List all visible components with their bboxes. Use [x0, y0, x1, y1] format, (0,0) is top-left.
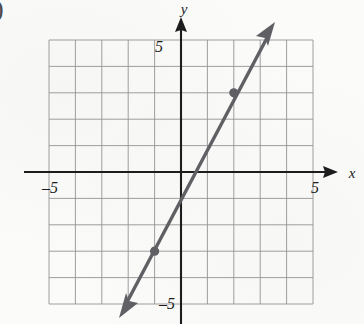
coordinate-plane: 5 –5 –5 5 x y [0, 0, 364, 324]
point-marker [150, 247, 159, 256]
y-axis-label: y [179, 1, 188, 17]
y-axis-tick-top: 5 [155, 38, 163, 55]
x-axis-tick-right: 5 [311, 179, 319, 196]
x-axis-tick-left: –5 [41, 179, 58, 196]
y-axis-tick-bottom: –5 [158, 295, 175, 312]
figure-canvas: ) [0, 0, 364, 324]
x-axis-label: x [348, 165, 356, 181]
point-marker [229, 88, 238, 97]
